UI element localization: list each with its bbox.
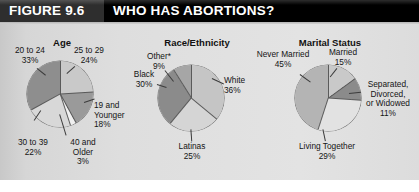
figure-title: WHO HAS ABORTIONS? [113,3,274,18]
charts-panel: Age 20 to 24 33% 25 to 29 24% 19 and You… [0,22,419,180]
panel-top-edge [0,22,419,24]
age-label-25-29: 25 to 29 24% [63,46,115,65]
figure-header-bar: FIGURE 9.6 WHO HAS ABORTIONS? [0,0,419,22]
marital-label-separated: Separated, Divorced, or Widowed 11% [359,80,417,118]
marital-label-separated-pct: 11% [359,109,417,119]
pie-slice-divider [60,92,93,95]
pie-slice-divider [318,98,329,130]
pie-slice-divider [191,65,192,98]
age-label-19-younger-pct: 18% [94,120,140,130]
age-label-20-24: 20 to 24 33% [4,46,56,65]
age-label-40-older: 40 and Older 3% [60,138,106,167]
header-gloss [0,0,419,5]
pie-slice-divider [31,94,60,111]
age-label-30-39-pct: 22% [7,148,59,158]
chart-title-race: Race/Ethnicity [152,37,242,48]
pie-chart-marital [295,65,361,131]
marital-label-married-pct: 15% [321,58,365,68]
race-label-white-pct: 36% [224,86,264,96]
marital-label-married: Married 15% [321,48,365,67]
race-label-white: White 36% [224,76,264,95]
marital-label-living-together: Living Together 29% [290,142,364,161]
pie-slice-divider [328,98,361,101]
age-label-19-younger: 19 and Younger 18% [94,101,140,130]
age-label-20-24-pct: 33% [4,56,56,66]
leader-race-latinas [191,129,193,141]
leader-marital-living-together [323,129,326,141]
figure-number: FIGURE 9.6 [9,3,85,18]
pie-slice-divider [191,98,217,120]
race-label-latinas: Latinas 25% [168,142,216,161]
race-label-latinas-pct: 25% [168,152,216,162]
marital-label-never-married: Never Married 45% [252,50,314,69]
pie-slice-divider [328,78,355,98]
pie-slice-divider [328,65,329,98]
pie-slice-divider [170,98,192,124]
race-label-black: Black 30% [126,70,162,89]
age-label-40-older-pct: 3% [60,157,106,167]
figure-container: FIGURE 9.6 WHO HAS ABORTIONS? Age 20 to … [0,0,419,192]
pie-slice-divider [60,61,61,94]
figure-footer [0,180,419,192]
age-label-30-39: 30 to 39 22% [7,138,59,157]
pie-slice-divider [173,70,191,98]
marital-label-living-together-pct: 29% [290,152,364,162]
age-label-25-29-pct: 24% [63,56,115,66]
marital-label-never-married-pct: 45% [252,60,314,70]
